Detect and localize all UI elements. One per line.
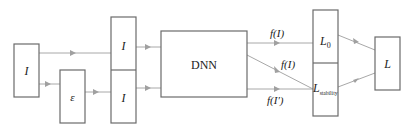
noise-label: ε — [70, 91, 75, 103]
noise-box: ε — [60, 70, 85, 123]
diagram-canvas: I ε I I DNN L0 Lstability L f(I) f(I) f(… — [0, 0, 410, 131]
input-box: I — [14, 44, 39, 97]
dnn-box: DNN — [161, 31, 247, 97]
edge-label-bottom: f(I′) — [267, 94, 284, 107]
stacked-input-box: I I — [111, 17, 136, 123]
loss-total-label: L — [383, 57, 391, 71]
edge-label-top: f(I) — [270, 27, 284, 40]
loss-stack-box: L0 Lstability — [312, 10, 338, 116]
edge-label-mid: f(I) — [281, 58, 295, 71]
dnn-label: DNN — [191, 58, 217, 72]
loss-total-box: L — [375, 37, 400, 90]
